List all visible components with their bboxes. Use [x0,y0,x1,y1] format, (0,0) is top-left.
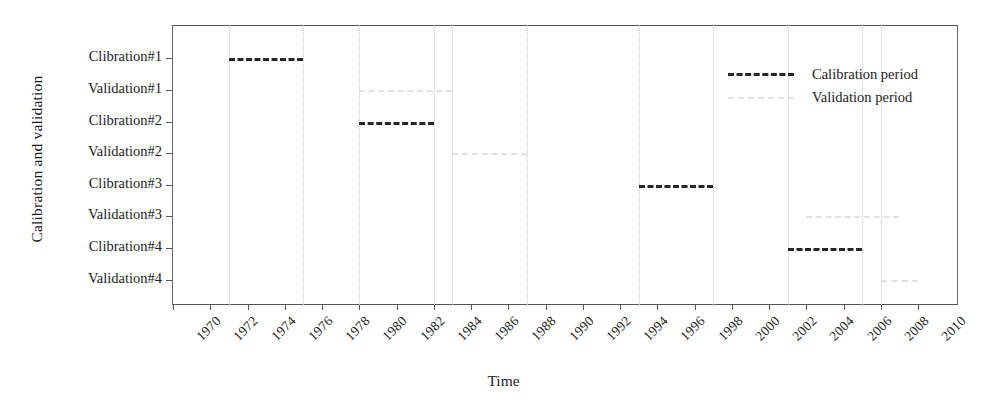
y-axis-tick [166,280,172,281]
x-axis-label-1970: 1970 [193,313,224,344]
x-axis-tick [434,305,435,310]
legend-label-validation: Validation period [812,89,912,106]
x-axis-label-2000: 2000 [752,313,783,344]
x-axis-label-1992: 1992 [603,313,634,344]
plot-area: Calibration periodValidation period [172,25,958,305]
y-axis-label-clibration2: Clibration#2 [89,112,162,129]
gridline [359,25,361,305]
x-axis-label-1976: 1976 [305,313,336,344]
gridline [527,25,529,305]
series-bar-validation1 [359,90,452,92]
x-axis-tick [210,305,211,310]
x-axis-label-1988: 1988 [529,313,560,344]
x-axis-tick [657,305,658,310]
series-bar-clibration2 [359,122,434,125]
chart-legend: Calibration periodValidation period [728,63,918,109]
x-axis-tick [322,305,323,310]
x-axis-tick [546,305,547,310]
axis-left-spine [172,25,173,305]
series-bar-clibration1 [229,58,304,61]
legend-label-calibration: Calibration period [812,66,918,83]
y-axis-label-validation2: Validation#2 [88,143,162,160]
y-axis-tick [166,90,172,91]
x-axis-tick [881,305,882,310]
legend-item-validation: Validation period [728,86,918,109]
y-axis-tick [166,185,172,186]
x-axis-label-2004: 2004 [827,313,858,344]
x-axis-tick [397,305,398,310]
x-axis-label-1978: 1978 [342,313,373,344]
axis-right-spine [957,25,958,305]
x-axis-label-1982: 1982 [417,313,448,344]
axis-top-spine [172,25,958,26]
x-axis-label-1980: 1980 [380,313,411,344]
x-axis-tick [248,305,249,310]
x-axis-label-1990: 1990 [566,313,597,344]
y-axis-label-clibration3: Clibration#3 [89,175,162,192]
y-axis-label-validation4: Validation#4 [88,270,162,287]
gridline [303,25,305,305]
y-axis-tick [166,216,172,217]
x-axis-tick [471,305,472,310]
x-axis-tick [173,305,174,310]
legend-swatch-validation [728,97,794,99]
x-axis-label-1974: 1974 [268,313,299,344]
series-bar-clibration3 [639,185,714,188]
x-axis-label-2006: 2006 [864,313,895,344]
legend-item-calibration: Calibration period [728,63,918,86]
x-axis-label-1994: 1994 [640,313,671,344]
y-axis-tick [166,248,172,249]
series-bar-clibration4 [788,248,863,251]
x-axis-label-1996: 1996 [678,313,709,344]
y-axis-label-validation3: Validation#3 [88,206,162,223]
gridline [452,25,454,305]
calibration-validation-timeline-chart: Calibration and validation Calibration p… [0,0,1007,407]
x-axis-tick [732,305,733,310]
x-axis-tick [806,305,807,310]
x-axis-label-1984: 1984 [454,313,485,344]
x-axis-tick [620,305,621,310]
gridline [639,25,641,305]
x-axis-tick [844,305,845,310]
axis-bottom-spine [172,304,958,305]
y-axis-label-clibration4: Clibration#4 [89,238,162,255]
x-axis-label-2002: 2002 [789,313,820,344]
x-axis-label-1986: 1986 [491,313,522,344]
gridline [229,25,231,305]
y-axis-label-clibration1: Clibration#1 [89,48,162,65]
y-axis-tick [166,122,172,123]
y-axis-title: Calibration and validation [28,59,46,259]
y-axis-label-validation1: Validation#1 [88,80,162,97]
series-bar-validation2 [452,153,527,155]
x-axis-label-1972: 1972 [231,313,262,344]
x-axis-tick [359,305,360,310]
y-axis-tick [166,153,172,154]
legend-swatch-calibration [728,73,794,76]
x-axis-tick [583,305,584,310]
gridline [713,25,715,305]
y-axis-tick [166,58,172,59]
x-axis-tick [769,305,770,310]
x-axis-tick [695,305,696,310]
series-bar-validation4 [881,280,918,282]
x-axis-label-1998: 1998 [715,313,746,344]
series-bar-validation3 [806,216,899,218]
x-axis-tick [508,305,509,310]
gridline [434,25,436,305]
x-axis-tick [285,305,286,310]
x-axis-label-2008: 2008 [901,313,932,344]
x-axis-label-2010: 2010 [938,313,969,344]
x-axis-title: Time [0,372,1007,390]
x-axis-tick [918,305,919,310]
